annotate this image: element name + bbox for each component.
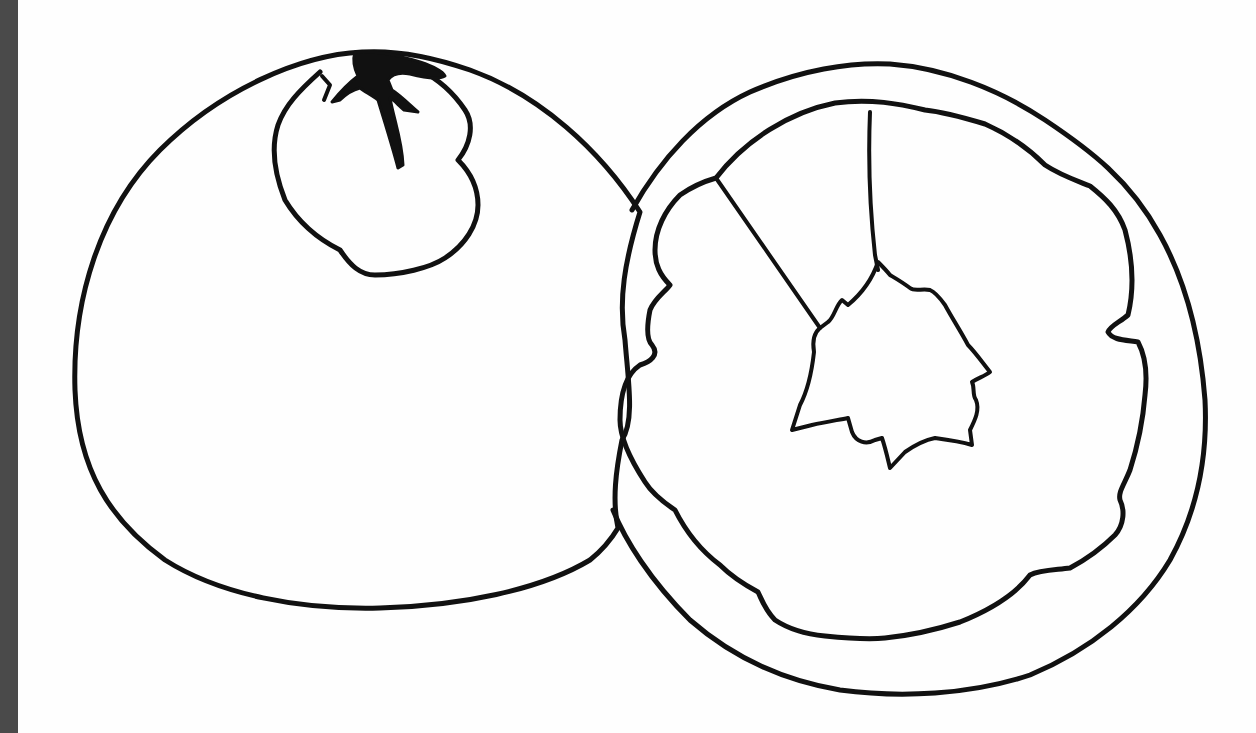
stem-cap-outline xyxy=(274,70,478,275)
stem-leaf-line xyxy=(322,76,330,100)
segment-line-top xyxy=(869,112,878,270)
rind-outer-outline xyxy=(613,64,1205,694)
drawing-canvas xyxy=(18,0,1256,733)
flesh-inner-outline xyxy=(620,101,1146,639)
stem-icon xyxy=(332,52,445,168)
orange-illustration xyxy=(18,0,1256,733)
core-outline xyxy=(792,262,990,468)
whole-orange-outline xyxy=(75,52,640,609)
segment-line-left xyxy=(716,178,820,328)
halved-orange xyxy=(613,64,1205,694)
left-edge-strip xyxy=(0,0,18,733)
whole-orange xyxy=(75,52,640,609)
